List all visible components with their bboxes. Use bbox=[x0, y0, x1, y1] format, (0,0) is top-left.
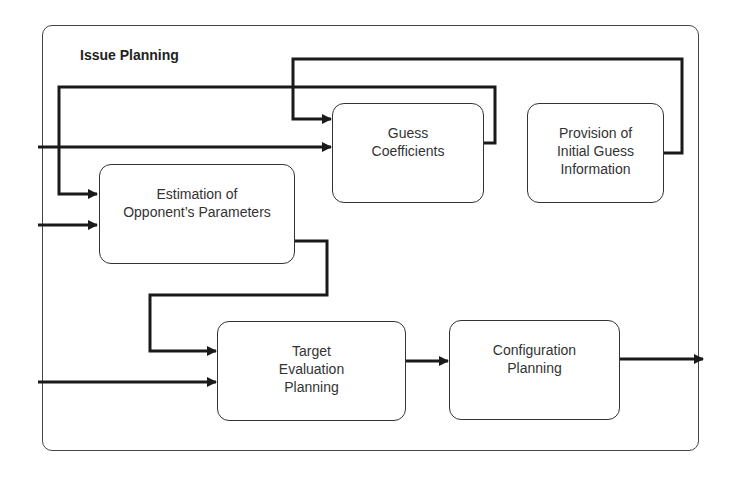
node-label: Configuration Planning bbox=[493, 341, 576, 419]
node-estimation-opponent-parameters: Estimation of Opponent’s Parameters bbox=[99, 164, 295, 264]
node-provision-initial-guess: Provision of Initial Guess Information bbox=[527, 103, 664, 203]
node-label: Target Evaluation Planning bbox=[279, 342, 344, 420]
node-label: Guess Coefficients bbox=[372, 124, 445, 202]
node-configuration-planning: Configuration Planning bbox=[449, 320, 620, 420]
node-target-evaluation-planning: Target Evaluation Planning bbox=[217, 321, 406, 421]
node-label: Estimation of Opponent’s Parameters bbox=[123, 185, 271, 263]
node-label: Provision of Initial Guess Information bbox=[557, 124, 634, 202]
node-guess-coefficients: Guess Coefficients bbox=[332, 103, 484, 203]
